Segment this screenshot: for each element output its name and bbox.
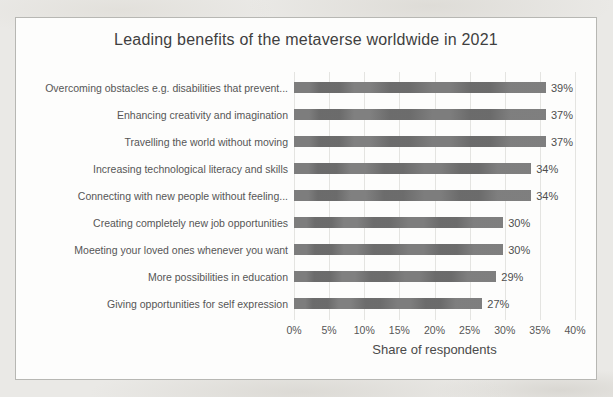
value-label: 30% bbox=[508, 244, 530, 256]
value-label: 37% bbox=[551, 136, 573, 148]
value-label: 30% bbox=[508, 217, 530, 229]
x-axis-tick-label: 0% bbox=[286, 324, 301, 336]
value-label: 34% bbox=[536, 190, 558, 202]
category-label: Moeeting your loved ones whenever you wa… bbox=[26, 244, 294, 256]
x-axis-tick-label: 20% bbox=[424, 324, 445, 336]
bar bbox=[294, 244, 503, 255]
bar bbox=[294, 163, 531, 174]
bar-track: 30% bbox=[294, 209, 573, 236]
category-label: Enhancing creativity and imagination bbox=[26, 109, 294, 121]
bar-track: 34% bbox=[294, 155, 573, 182]
bar-row: Enhancing creativity and imagination37% bbox=[26, 101, 573, 128]
value-label: 39% bbox=[551, 82, 573, 94]
bar-track: 39% bbox=[294, 74, 573, 101]
chart-panel: Leading benefits of the metaverse worldw… bbox=[15, 17, 597, 380]
bar-row: Connecting with new people without feeli… bbox=[26, 182, 573, 209]
bar-track: 37% bbox=[294, 101, 573, 128]
x-axis-tick-label: 15% bbox=[389, 324, 410, 336]
bar bbox=[294, 190, 531, 201]
x-axis-title: Share of respondents bbox=[294, 342, 575, 357]
bar-track: 27% bbox=[294, 290, 573, 317]
x-axis-tick-label: 35% bbox=[529, 324, 550, 336]
bar-rows: Overcoming obstacles e.g. disabilities t… bbox=[26, 74, 573, 317]
category-label: Overcoming obstacles e.g. disabilities t… bbox=[26, 82, 294, 94]
bar bbox=[294, 298, 482, 309]
bar-track: 37% bbox=[294, 128, 573, 155]
bar-track: 29% bbox=[294, 263, 573, 290]
chart-title: Leading benefits of the metaverse worldw… bbox=[16, 31, 596, 49]
x-axis-ticks: 0%5%10%15%20%25%30%35%40% bbox=[294, 324, 575, 338]
bar-track: 34% bbox=[294, 182, 573, 209]
x-axis-tick-label: 5% bbox=[322, 324, 337, 336]
bar-row: Giving opportunities for self expression… bbox=[26, 290, 573, 317]
category-label: Travelling the world without moving bbox=[26, 136, 294, 148]
bar-row: Moeeting your loved ones whenever you wa… bbox=[26, 236, 573, 263]
value-label: 34% bbox=[536, 163, 558, 175]
gridline bbox=[575, 72, 576, 320]
bar bbox=[294, 82, 546, 93]
category-label: Connecting with new people without feeli… bbox=[26, 190, 294, 202]
value-label: 27% bbox=[487, 298, 509, 310]
bar bbox=[294, 217, 503, 228]
value-label: 29% bbox=[501, 271, 523, 283]
category-label: Giving opportunities for self expression bbox=[26, 298, 294, 310]
bar-row: Increasing technological literacy and sk… bbox=[26, 155, 573, 182]
category-label: Creating completely new job opportunitie… bbox=[26, 217, 294, 229]
bar bbox=[294, 109, 546, 120]
bar-row: Travelling the world without moving37% bbox=[26, 128, 573, 155]
bar-row: Overcoming obstacles e.g. disabilities t… bbox=[26, 74, 573, 101]
bar-row: Creating completely new job opportunitie… bbox=[26, 209, 573, 236]
x-axis-tick-label: 40% bbox=[564, 324, 585, 336]
bar-track: 30% bbox=[294, 236, 573, 263]
category-label: Increasing technological literacy and sk… bbox=[26, 163, 294, 175]
value-label: 37% bbox=[551, 109, 573, 121]
bar bbox=[294, 271, 496, 282]
bar bbox=[294, 136, 546, 147]
x-axis-tick-label: 25% bbox=[459, 324, 480, 336]
bar-row: More possibilities in education29% bbox=[26, 263, 573, 290]
category-label: More possibilities in education bbox=[26, 271, 294, 283]
x-axis-tick-label: 10% bbox=[354, 324, 375, 336]
page-background: { "page": { "background_color": "#eae9e6… bbox=[0, 0, 613, 397]
x-axis-tick-label: 30% bbox=[494, 324, 515, 336]
